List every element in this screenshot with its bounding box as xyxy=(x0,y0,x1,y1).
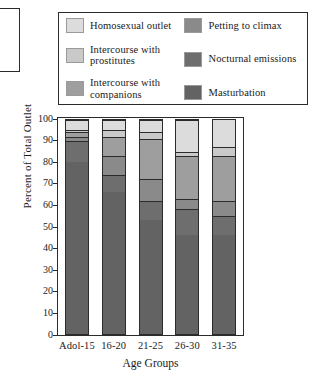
legend-column-right: Petting to climax Nocturnal emissions Ma… xyxy=(184,18,301,100)
legend-item-masturbation: Masturbation xyxy=(184,85,301,100)
x-axis-title: Age Groups xyxy=(57,357,244,369)
y-axis-tick-label: 10 xyxy=(27,308,53,318)
bar-segment xyxy=(176,156,198,199)
bar-31-35[interactable] xyxy=(212,119,236,335)
bar-segment xyxy=(213,156,235,201)
bar-segment xyxy=(66,141,88,162)
y-axis-title: Percent of Total Outlet xyxy=(21,71,33,241)
legend-swatch-icon xyxy=(184,85,202,100)
bar-segment xyxy=(176,199,198,210)
bar-segment xyxy=(140,179,162,200)
bar-segment xyxy=(213,235,235,333)
bar-segment xyxy=(176,120,198,152)
legend-item-label: Homosexual outlet xyxy=(90,20,171,32)
legend-item-label: Petting to climax xyxy=(208,20,281,32)
plot-area xyxy=(59,119,243,335)
legend-item-label: Masturbation xyxy=(208,87,265,99)
y-axis-tick-label: 30 xyxy=(27,265,53,275)
y-axis-tick-label: 0 xyxy=(27,330,53,340)
bar-segment xyxy=(103,120,125,131)
legend-item-label: Intercourse with companions xyxy=(90,77,184,100)
bar-segment xyxy=(103,175,125,192)
bar-21-25[interactable] xyxy=(139,119,163,335)
bar-segment xyxy=(66,162,88,333)
legend-item-intercourse-companions: Intercourse with companions xyxy=(66,77,184,100)
bar-segment xyxy=(176,235,198,333)
bar-segment xyxy=(103,156,125,175)
bar-segment xyxy=(213,147,235,156)
legend-item-homosexual-outlet: Homosexual outlet xyxy=(66,18,184,33)
bar-segment xyxy=(140,220,162,333)
legend-column-left: Homosexual outlet Intercourse with prost… xyxy=(66,18,184,100)
x-axis-tick-label: 31-35 xyxy=(197,340,251,351)
bar-segment xyxy=(213,201,235,216)
legend-item-nocturnal-emissions: Nocturnal emissions xyxy=(184,52,301,67)
y-axis-tick-label: 40 xyxy=(27,243,53,253)
bar-segment xyxy=(213,119,235,147)
bar-segment xyxy=(140,139,162,180)
legend-swatch-icon xyxy=(66,81,84,96)
chart-legend: Homosexual outlet Intercourse with prost… xyxy=(58,12,308,105)
bar-segment xyxy=(176,209,198,235)
legend-item-label: Intercourse with prostitutes xyxy=(90,44,184,67)
bar-segment xyxy=(140,120,162,133)
legend-swatch-icon xyxy=(66,18,84,33)
legend-swatch-icon xyxy=(66,48,84,63)
bar-adol-15[interactable] xyxy=(65,119,89,335)
y-axis-tick-label: 20 xyxy=(27,286,53,296)
legend-item-label: Nocturnal emissions xyxy=(208,53,296,65)
legend-swatch-icon xyxy=(184,52,202,67)
legend-item-intercourse-prostitutes: Intercourse with prostitutes xyxy=(66,44,184,67)
bar-16-20[interactable] xyxy=(102,119,126,335)
legend-swatch-icon xyxy=(184,18,202,33)
bar-segment xyxy=(66,120,88,131)
bar-segment xyxy=(103,137,125,156)
legend-item-petting-to-climax: Petting to climax xyxy=(184,18,301,33)
bar-segment xyxy=(103,192,125,333)
bar-26-30[interactable] xyxy=(175,119,199,335)
bar-segment xyxy=(140,201,162,220)
bar-segment xyxy=(213,216,235,235)
